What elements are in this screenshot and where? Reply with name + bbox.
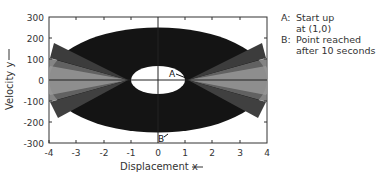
x-tick-labels: -4 -3 -2 -1 0 1 2 3 4: [45, 148, 271, 158]
x-tick-label: 2: [209, 148, 215, 158]
y-tick-label: -100: [24, 97, 45, 107]
y-axis-title: Velocity y: [4, 62, 15, 110]
legend-key: B:: [281, 34, 296, 56]
x-tick-label: 0: [155, 148, 161, 158]
x-tick-label: -1: [127, 148, 136, 158]
legend-text: Point reached after 10 seconds: [296, 34, 375, 56]
legend-text: Start up at (1,0): [296, 12, 334, 34]
legend-item-b: B: Point reached after 10 seconds: [281, 34, 375, 56]
annotation-a-marker: A: [169, 69, 176, 79]
legend-key: A:: [281, 12, 296, 34]
y-tick-label: 100: [27, 55, 44, 65]
x-axis-title: Displacement x: [120, 161, 198, 172]
x-tick-label: -4: [45, 148, 54, 158]
x-tick-label: 3: [237, 148, 243, 158]
x-tick-label: -2: [100, 148, 109, 158]
y-tick-label: -300: [24, 139, 45, 149]
x-tick-label: 1: [182, 148, 188, 158]
y-tick-labels: 300 200 100 0 -100 -200 -300: [24, 13, 45, 149]
legend: A: Start up at (1,0) B: Point reached af…: [281, 12, 375, 56]
legend-item-a: A: Start up at (1,0): [281, 12, 375, 34]
x-tick-label: 4: [264, 148, 270, 158]
y-tick-label: -200: [24, 118, 45, 128]
y-tick-label: 300: [27, 13, 44, 23]
annotation-b-marker: B: [158, 134, 164, 144]
x-tick-label: -3: [72, 148, 81, 158]
y-tick-label: 0: [38, 76, 44, 86]
y-tick-label: 200: [27, 34, 44, 44]
